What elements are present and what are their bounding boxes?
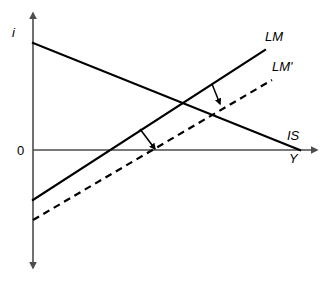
origin-label: 0: [17, 144, 24, 157]
lm-curve-label: LM: [265, 30, 283, 43]
shift-arrow-lower-icon: [140, 129, 155, 149]
horizontal-axis-label: Y: [289, 152, 298, 165]
shift-arrow-upper-icon: [212, 84, 220, 104]
vertical-axis-label: i: [12, 26, 15, 39]
is-lm-diagram: i 0 LM LM' IS Y: [0, 0, 323, 282]
is-curve: [33, 43, 300, 150]
lm-prime-curve-label: LM': [272, 60, 293, 73]
is-curve-label: IS: [287, 129, 299, 142]
lm-curve: [33, 50, 265, 200]
